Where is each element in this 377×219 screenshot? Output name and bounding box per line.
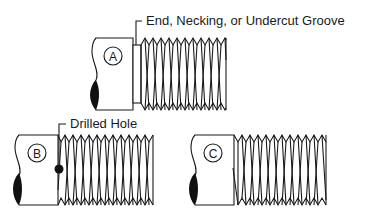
part-b-callout: Drilled Hole (70, 116, 137, 131)
part-a-callout: End, Necking, or Undercut Groove (146, 13, 345, 28)
thread-diagram: A End, Necking, or Undercut Groove B Dri… (0, 0, 377, 219)
part-b-drilled-hole (55, 165, 64, 174)
part-c: C (189, 135, 326, 205)
part-a-undercut-groove (133, 45, 141, 103)
part-a-label: A (109, 50, 117, 64)
part-b-label: B (33, 147, 41, 161)
part-c-threads (233, 135, 326, 205)
part-c-label: C (209, 147, 218, 161)
part-a-leader (136, 21, 142, 45)
part-b: B Drilled Hole (13, 116, 153, 205)
part-a-threads (141, 38, 226, 110)
part-a: A End, Necking, or Undercut Groove (90, 13, 345, 110)
part-b-threads (58, 135, 153, 205)
